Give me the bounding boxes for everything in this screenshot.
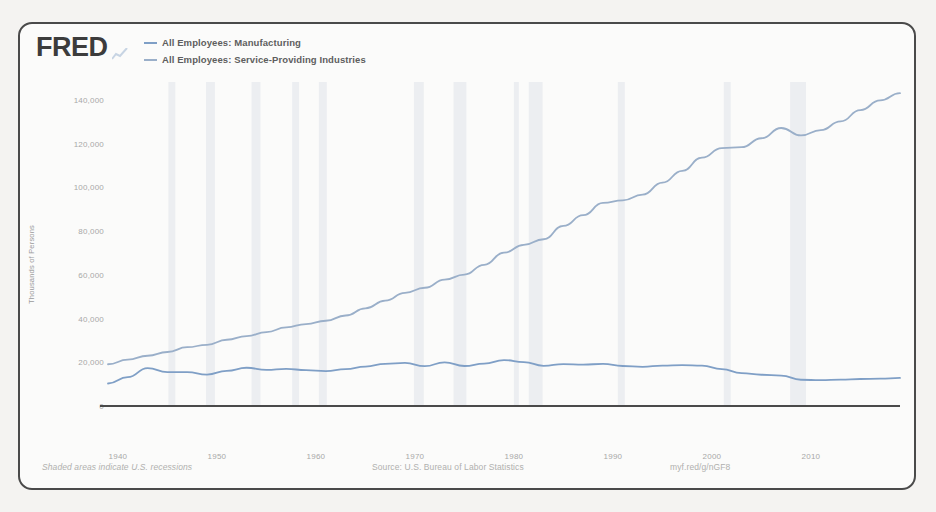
plot-svg (20, 76, 916, 448)
legend-item-service-providing[interactable]: All Employees: Service-Providing Industr… (144, 52, 366, 67)
x-axis-tick: 1950 (208, 452, 227, 461)
legend-item-manufacturing[interactable]: All Employees: Manufacturing (144, 35, 366, 50)
chart-line-icon (112, 46, 128, 58)
legend-label-service-providing: All Employees: Service-Providing Industr… (162, 54, 366, 65)
chart-header: FRED All Employees: Manufacturing All Em… (20, 24, 914, 76)
fred-chart-card: FRED All Employees: Manufacturing All Em… (18, 22, 916, 490)
x-axis-tick: 1960 (307, 452, 326, 461)
x-axis-tick: 1990 (604, 452, 623, 461)
recession-note: Shaded areas indicate U.S. recessions (42, 462, 192, 472)
recession-bands (168, 82, 806, 406)
x-axis-tick: 1940 (109, 452, 128, 461)
legend-label-manufacturing: All Employees: Manufacturing (162, 37, 301, 48)
recession-band (790, 82, 806, 406)
chart-legend: All Employees: Manufacturing All Employe… (144, 35, 366, 69)
series-line-manufacturing (108, 360, 900, 383)
x-axis-tick: 2010 (802, 452, 821, 461)
recession-band (206, 82, 215, 406)
recession-band (414, 82, 424, 406)
recession-band (168, 82, 175, 406)
x-axis-tick: 2000 (703, 452, 722, 461)
chart-footer: Shaded areas indicate U.S. recessions So… (20, 462, 916, 478)
source-note: Source: U.S. Bureau of Labor Statistics (372, 462, 524, 472)
legend-swatch-service-providing (144, 59, 157, 61)
series-lines (108, 93, 900, 383)
fred-logo[interactable]: FRED (36, 34, 108, 61)
shortlink[interactable]: myf.red/g/nGF8 (670, 462, 730, 472)
x-axis-tick: 1980 (505, 452, 524, 461)
recession-band (454, 82, 467, 406)
legend-swatch-manufacturing (144, 42, 157, 44)
recession-band (514, 82, 519, 406)
series-line-service-providing (108, 93, 900, 364)
recession-band (319, 82, 327, 406)
recession-band (252, 82, 261, 406)
recession-band (292, 82, 299, 406)
plot-area: Thousands of Persons 020,00040,00060,000… (20, 76, 916, 448)
recession-band (724, 82, 731, 406)
fred-chart-screenshot: FRED All Employees: Manufacturing All Em… (0, 0, 936, 512)
recession-band (618, 82, 625, 406)
x-axis-tick: 1970 (406, 452, 425, 461)
